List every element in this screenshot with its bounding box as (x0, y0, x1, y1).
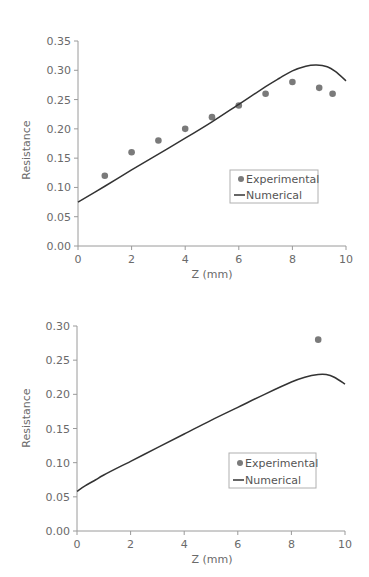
x-tick-label: 4 (181, 538, 188, 551)
y-tick-label: 0.30 (46, 320, 71, 333)
x-tick-label: 10 (339, 253, 353, 266)
experimental-point (182, 126, 189, 133)
legend: Experimental Numerical (230, 170, 319, 203)
y-tick-label: 0.05 (46, 491, 71, 504)
experimental-point (316, 85, 323, 92)
experimental-point (315, 336, 322, 343)
x-tick-label: 2 (128, 253, 135, 266)
legend-dot-icon (237, 460, 243, 466)
y-tick-label: 0.10 (46, 457, 71, 470)
x-tick-label: 8 (289, 253, 296, 266)
legend-label-numerical: Numerical (246, 189, 302, 202)
x-axis: 0246810 (74, 531, 353, 551)
y-tick-label: 0.00 (46, 525, 71, 538)
x-axis-title: Z (mm) (191, 268, 232, 281)
legend-label-experimental: Experimental (245, 457, 318, 470)
legend-label-experimental: Experimental (246, 173, 319, 186)
y-tick-label: 0.35 (47, 35, 72, 48)
y-axis-title: Resistance (20, 388, 33, 448)
y-tick-label: 0.15 (46, 423, 71, 436)
y-tick-label: 0.25 (46, 354, 71, 367)
x-tick-label: 0 (75, 253, 82, 266)
y-tick-label: 0.00 (47, 240, 72, 253)
y-axis: 0.000.050.100.150.200.250.30 (46, 320, 78, 538)
experimental-point (102, 172, 109, 179)
y-tick-label: 0.25 (47, 94, 72, 107)
experimental-point (262, 90, 269, 97)
chart-bottom-svg: 0.000.050.100.150.200.250.30 0246810 Res… (0, 290, 369, 577)
chart-bottom: 0.000.050.100.150.200.250.30 0246810 Res… (0, 290, 369, 577)
y-axis: 0.000.050.100.150.200.250.300.35 (47, 35, 79, 253)
experimental-point (155, 137, 162, 144)
y-tick-label: 0.05 (47, 211, 72, 224)
x-tick-label: 6 (234, 538, 241, 551)
chart-top: 0.000.050.100.150.200.250.300.35 0246810… (0, 0, 369, 290)
x-tick-label: 0 (74, 538, 81, 551)
y-tick-label: 0.20 (47, 123, 72, 136)
x-tick-label: 8 (288, 538, 295, 551)
y-tick-label: 0.10 (47, 181, 72, 194)
legend: Experimental Numerical (229, 453, 318, 488)
x-axis-title: Z (mm) (191, 553, 232, 566)
y-axis-title: Resistance (20, 120, 33, 180)
x-tick-label: 4 (182, 253, 189, 266)
chart-top-svg: 0.000.050.100.150.200.250.300.35 0246810… (0, 0, 369, 290)
y-tick-label: 0.15 (47, 152, 72, 165)
experimental-point (289, 79, 296, 86)
x-tick-label: 6 (235, 253, 242, 266)
y-tick-label: 0.20 (46, 388, 71, 401)
legend-label-numerical: Numerical (245, 474, 301, 487)
legend-dot-icon (238, 176, 244, 182)
x-tick-label: 2 (127, 538, 134, 551)
x-axis: 0246810 (75, 246, 354, 266)
experimental-point (329, 90, 336, 97)
y-tick-label: 0.30 (47, 64, 72, 77)
experimental-point (128, 149, 135, 156)
experimental-point (209, 114, 216, 121)
x-tick-label: 10 (338, 538, 352, 551)
